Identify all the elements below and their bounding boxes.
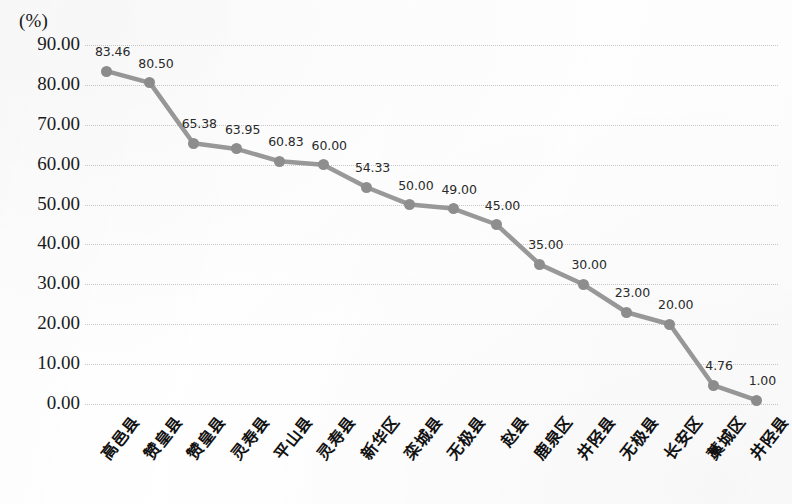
x-axis-category-label: 赞皇县: [181, 410, 230, 464]
y-axis-tick-label: 20.00: [2, 312, 80, 334]
data-point-value-label: 30.00: [571, 257, 606, 272]
y-axis-tick-label: 50.00: [2, 193, 80, 215]
x-axis-category-label: 无极县: [614, 410, 663, 464]
data-point-value-label: 23.00: [615, 285, 650, 300]
series-markers: 83.4680.5065.3863.9560.8360.0054.3350.00…: [85, 45, 778, 404]
data-point-marker: [491, 219, 502, 230]
x-axis-category-label: 无极县: [441, 410, 490, 464]
data-point-value-label: 35.00: [528, 237, 563, 252]
data-point-marker: [448, 203, 459, 214]
y-axis-tick-label: 40.00: [2, 232, 80, 254]
data-point-value-label: 83.46: [95, 44, 130, 59]
x-axis-category-label: 平山县: [267, 410, 316, 464]
data-point-value-label: 49.00: [442, 182, 477, 197]
x-axis-category-label: 栾城县: [397, 410, 446, 464]
x-axis-category-labels: 高邑县赞皇县赞皇县灵寿县平山县灵寿县新华区栾城县无极县赵县鹿泉区井陉县无极县长安…: [85, 404, 778, 504]
x-axis-category-label: 井陉县: [571, 410, 620, 464]
data-point-value-label: 60.00: [312, 138, 347, 153]
x-axis-category-label: 赵县: [494, 410, 533, 451]
data-point-marker: [708, 380, 719, 391]
x-axis-category-label: 藁城区: [701, 410, 750, 464]
y-axis-tick-label: 70.00: [2, 113, 80, 135]
data-point-value-label: 80.50: [138, 56, 173, 71]
data-point-marker: [101, 66, 112, 77]
data-point-marker: [231, 143, 242, 154]
y-axis-tick-label: 80.00: [2, 73, 80, 95]
x-axis-category-label: 灵寿县: [224, 410, 273, 464]
data-point-marker: [534, 259, 545, 270]
data-point-value-label: 4.76: [705, 358, 732, 373]
x-axis-category-label: 灵寿县: [311, 410, 360, 464]
x-axis-category-label: 长安区: [657, 410, 706, 464]
data-point-value-label: 60.83: [268, 134, 303, 149]
y-axis-tick-label: 0.00: [2, 392, 80, 414]
chart-container: (%) 90.0080.0070.0060.0050.0040.0030.002…: [0, 0, 792, 504]
plot-area: 83.4680.5065.3863.9560.8360.0054.3350.00…: [85, 45, 778, 404]
x-axis-category-label: 新华区: [354, 410, 403, 464]
y-axis-tick-label: 10.00: [2, 352, 80, 374]
data-point-marker: [621, 307, 632, 318]
data-point-marker: [404, 199, 415, 210]
data-point-value-label: 1.00: [749, 373, 776, 388]
data-point-value-label: 54.33: [355, 160, 390, 175]
data-point-value-label: 63.95: [225, 122, 260, 137]
data-point-value-label: 20.00: [658, 297, 693, 312]
y-axis-unit-label: (%): [19, 10, 48, 32]
data-point-marker: [578, 279, 589, 290]
data-point-marker: [188, 138, 199, 149]
data-point-value-label: 65.38: [182, 116, 217, 131]
data-point-marker: [318, 159, 329, 170]
data-point-marker: [144, 77, 155, 88]
x-axis-category-label: 赞皇县: [137, 410, 186, 464]
y-axis-tick-labels: 90.0080.0070.0060.0050.0040.0030.0020.00…: [0, 45, 80, 404]
y-axis-tick-label: 30.00: [2, 272, 80, 294]
y-axis-tick-label: 60.00: [2, 153, 80, 175]
x-axis-category-label: 鹿泉区: [527, 410, 576, 464]
x-axis-category-label: 井陉县: [744, 410, 792, 464]
data-point-marker: [664, 319, 675, 330]
data-point-marker: [274, 156, 285, 167]
data-point-marker: [361, 182, 372, 193]
data-point-value-label: 45.00: [485, 198, 520, 213]
y-axis-tick-label: 90.00: [2, 33, 80, 55]
x-axis-category-label: 高邑县: [94, 410, 143, 464]
data-point-value-label: 50.00: [398, 178, 433, 193]
